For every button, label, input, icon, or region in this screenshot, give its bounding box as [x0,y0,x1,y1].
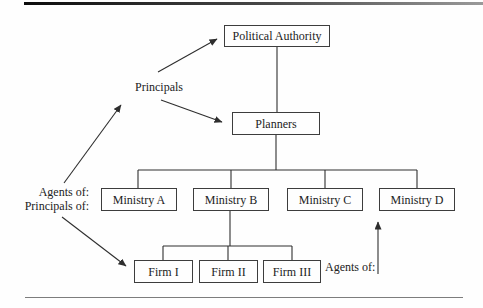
arrow-principals-to-authority [158,39,217,72]
node-ministry-a: Ministry A [101,188,177,211]
agents-of-right-label: Agents of: [325,261,375,275]
left-labels-block: Agents of: Principals of: [19,186,89,213]
annotation-arrows [62,39,378,274]
arrow-labels-to-principals [64,105,121,183]
node-firm-1: Firm I [134,260,193,283]
arrow-labels-to-firms [62,217,126,266]
node-firm-2: Firm II [199,260,258,283]
agents-of-left-label: Agents of: [19,186,89,200]
node-ministry-d: Ministry D [379,188,455,211]
node-firm-3: Firm III [263,260,321,283]
principals-of-left-label: Principals of: [19,200,89,214]
diagram-canvas: Political Authority Planners Ministry A … [0,0,483,308]
node-planners: Planners [232,112,320,135]
principals-label: Principals [135,81,183,95]
arrow-principals-to-planners [161,100,222,122]
node-ministry-c: Ministry C [287,188,363,211]
node-political-authority: Political Authority [224,25,330,47]
tree-connectors [138,47,417,260]
node-ministry-b: Ministry B [193,188,269,211]
